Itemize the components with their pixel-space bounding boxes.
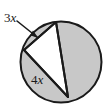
arc-label-4x: 4x	[31, 72, 44, 87]
arc-label-4x-variable: x	[37, 72, 44, 87]
arc-label-3x-variable: x	[10, 10, 17, 25]
arc-label-3x: 3x	[4, 10, 17, 25]
geometry-figure: 3x 4x	[0, 0, 110, 112]
circle-diagram-canvas: 3x 4x	[0, 0, 110, 112]
